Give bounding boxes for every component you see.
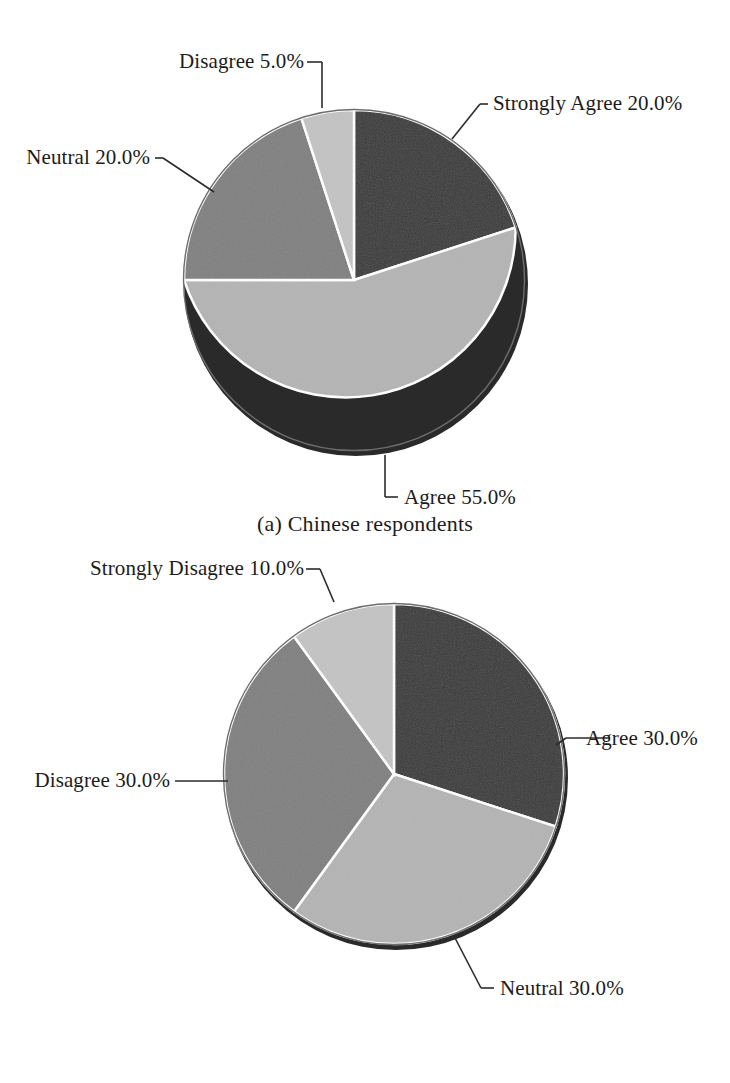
leader-line-strongly-disagree <box>320 569 334 602</box>
pie-chart-panel-chinese: Disagree 5.0% Strongly Agree 20.0% Neutr… <box>0 0 730 545</box>
leader-line-neutral <box>455 938 481 988</box>
pie-label-neutral: Neutral 30.0% <box>500 977 624 999</box>
pie-label-agree: Agree 55.0% <box>404 486 516 508</box>
panel-caption-chinese: (a) Chinese respondents <box>0 511 730 537</box>
leader-line-strongly-agree <box>452 104 480 139</box>
pie-slices-group <box>224 604 564 944</box>
figure-two-pie-charts: Disagree 5.0% Strongly Agree 20.0% Neutr… <box>0 0 730 1083</box>
pie-chart-panel-czech: Strongly Disagree 10.0% Agree 30.0% Disa… <box>0 545 730 1083</box>
leader-line-neutral <box>163 158 214 192</box>
pie-label-strongly-disagree: Strongly Disagree 10.0% <box>0 557 304 579</box>
pie-chart-czech-svg <box>0 545 730 1083</box>
pie-label-neutral: Neutral 20.0% <box>0 146 150 168</box>
pie-label-strongly-agree: Strongly Agree 20.0% <box>493 92 682 114</box>
pie-label-agree: Agree 30.0% <box>586 727 698 749</box>
pie-chart-chinese-svg <box>0 0 730 545</box>
pie-label-disagree: Disagree 5.0% <box>4 50 304 72</box>
pie-label-disagree: Disagree 30.0% <box>0 769 170 791</box>
